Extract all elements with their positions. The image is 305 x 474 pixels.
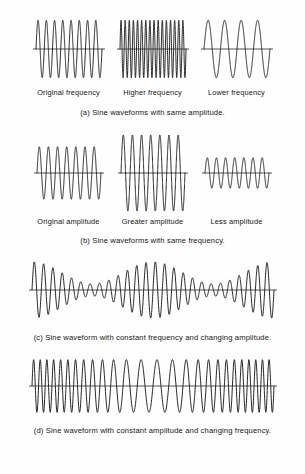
waveform-lower-frequency bbox=[200, 14, 274, 84]
caption-panel-c: (c) Sine waveform with constant frequenc… bbox=[0, 334, 305, 342]
panel-c-plot-wrap bbox=[0, 257, 305, 323]
panel-a-frequency-comparison: Original frequency Higher frequency Lowe… bbox=[0, 0, 305, 117]
wave-cell-greater-amplitude: Greater amplitude bbox=[117, 133, 189, 225]
wave-label-original-frequency: Original frequency bbox=[37, 89, 100, 96]
panel-c-amplitude-modulation: (c) Sine waveform with constant frequenc… bbox=[0, 245, 305, 342]
wave-cell-original-amplitude: Original amplitude bbox=[33, 133, 105, 225]
caption-panel-d: (d) Sine waveform with constant amplitud… bbox=[0, 427, 305, 435]
waveform-trace bbox=[37, 147, 101, 199]
waveform-trace bbox=[205, 158, 269, 188]
wave-cell-less-amplitude: Less amplitude bbox=[201, 133, 273, 225]
panel-b-wave-row: Original amplitude Greater amplitude Les… bbox=[0, 133, 305, 225]
waveform-trace bbox=[120, 20, 186, 77]
wave-label-less-amplitude: Less amplitude bbox=[211, 218, 263, 225]
wave-label-greater-amplitude: Greater amplitude bbox=[122, 218, 184, 225]
panel-b-amplitude-comparison: Original amplitude Greater amplitude Les… bbox=[0, 117, 305, 245]
caption-panel-a: (a) Sine waveforms with same amplitude. bbox=[0, 109, 305, 117]
waveform-original-frequency bbox=[32, 14, 106, 84]
waveform-original-amplitude bbox=[33, 133, 105, 213]
panel-d-frequency-modulation: (d) Sine waveform with constant amplitud… bbox=[0, 342, 305, 435]
wave-label-original-amplitude: Original amplitude bbox=[37, 218, 99, 225]
figure-sheet: Original frequency Higher frequency Lowe… bbox=[0, 0, 305, 474]
waveform-trace bbox=[121, 135, 185, 211]
wave-cell-original-frequency: Original frequency bbox=[32, 14, 106, 96]
panel-a-wave-row: Original frequency Higher frequency Lowe… bbox=[0, 14, 305, 96]
wave-cell-higher-frequency: Higher frequency bbox=[116, 14, 190, 96]
wave-label-lower-frequency: Lower frequency bbox=[208, 89, 265, 96]
wave-cell-lower-frequency: Lower frequency bbox=[200, 14, 274, 96]
panel-d-plot-wrap bbox=[0, 355, 305, 417]
waveform-frequency-modulated bbox=[28, 355, 278, 417]
waveform-amplitude-modulated bbox=[28, 257, 278, 323]
wave-label-higher-frequency: Higher frequency bbox=[123, 89, 182, 96]
waveform-greater-amplitude bbox=[117, 133, 189, 213]
waveform-higher-frequency bbox=[116, 14, 190, 84]
caption-panel-b: (b) Sine waveforms with same frequency. bbox=[0, 237, 305, 245]
waveform-less-amplitude bbox=[201, 133, 273, 213]
